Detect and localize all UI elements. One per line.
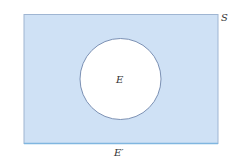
event-label: E (115, 74, 124, 85)
venn-diagram: E S E′ (0, 0, 239, 161)
complement-label: E′ (113, 147, 124, 158)
sample-space-label: S (221, 12, 228, 23)
